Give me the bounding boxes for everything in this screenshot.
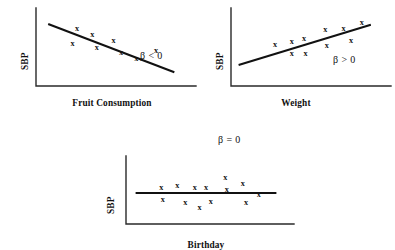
scatterplot-birthday: xxxxxxxxxxxxx bbox=[100, 152, 300, 236]
data-point-marker: x bbox=[75, 24, 80, 33]
y-axis-title-birthday: SBP bbox=[106, 196, 116, 214]
data-point-marker: x bbox=[204, 183, 209, 192]
data-point-marker: x bbox=[257, 190, 262, 199]
beta-annotation-birthday: β = 0 bbox=[218, 134, 241, 145]
scatterplot-weight: xxxxxxxxxx bbox=[209, 6, 389, 94]
beta-annotation-fruit: β < 0 bbox=[140, 50, 163, 61]
data-point-marker: x bbox=[244, 198, 249, 207]
data-point-marker: x bbox=[111, 36, 116, 45]
data-point-marker: x bbox=[241, 179, 246, 188]
panel-birthday: xxxxxxxxxxxxx SBP Birthday β = 0 bbox=[100, 134, 300, 246]
plot-axes bbox=[126, 156, 294, 224]
data-point-marker: x bbox=[290, 49, 295, 58]
data-point-marker: x bbox=[360, 18, 365, 27]
data-point-marker: x bbox=[198, 203, 203, 212]
data-point-marker: x bbox=[159, 183, 164, 192]
data-point-marker: x bbox=[183, 198, 188, 207]
beta-annotation-weight: β > 0 bbox=[333, 54, 356, 65]
plot-axes bbox=[231, 8, 391, 86]
x-axis-title-birthday: Birthday bbox=[126, 240, 286, 250]
data-point-marker: x bbox=[273, 40, 278, 49]
data-point-marker: x bbox=[209, 197, 214, 206]
plot-axes bbox=[36, 8, 196, 86]
x-axis-title-fruit: Fruit Consumption bbox=[36, 98, 188, 108]
data-point-marker: x bbox=[303, 49, 308, 58]
data-point-marker: x bbox=[323, 25, 328, 34]
y-axis-title-weight: SBP bbox=[215, 52, 225, 70]
data-point-marker: x bbox=[193, 183, 198, 192]
data-point-marker: x bbox=[70, 39, 75, 48]
data-point-marker: x bbox=[90, 30, 95, 39]
data-point-marker: x bbox=[175, 181, 180, 190]
data-point-marker: x bbox=[349, 36, 354, 45]
panel-weight: xxxxxxxxxx SBP Weight β > 0 bbox=[209, 6, 389, 114]
panel-fruit-consumption: xxxxxxxx SBP Fruit Consumption β < 0 bbox=[14, 6, 194, 114]
data-point-marker: x bbox=[223, 173, 228, 182]
data-point-marker: x bbox=[302, 34, 307, 43]
data-point-marker: x bbox=[161, 195, 166, 204]
y-axis-title-fruit: SBP bbox=[20, 52, 30, 70]
x-axis-title-weight: Weight bbox=[231, 98, 361, 108]
data-point-marker: x bbox=[290, 37, 295, 46]
scatterplot-fruit-consumption: xxxxxxxx bbox=[14, 6, 194, 94]
data-point-marker: x bbox=[325, 41, 330, 50]
